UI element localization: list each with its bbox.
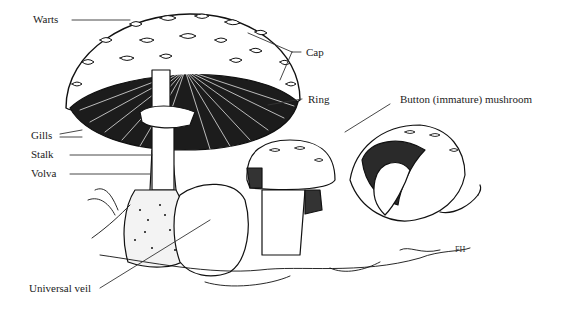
label-volva: Volva bbox=[31, 167, 56, 179]
label-warts: Warts bbox=[33, 13, 58, 25]
label-button-mushroom: Button (immature) mushroom bbox=[400, 93, 532, 105]
artist-signature: FH bbox=[455, 245, 465, 254]
label-ring: Ring bbox=[308, 93, 329, 105]
label-gills: Gills bbox=[31, 129, 52, 141]
button-mushroom-middle bbox=[247, 140, 335, 255]
label-cap: Cap bbox=[306, 46, 324, 58]
button-mushroom-right bbox=[350, 125, 481, 221]
universal-veil-egg bbox=[174, 184, 248, 276]
label-stalk: Stalk bbox=[31, 148, 54, 160]
mushroom-illustration bbox=[0, 0, 567, 310]
label-universal-veil: Universal veil bbox=[29, 282, 91, 294]
mushroom-diagram: Warts Cap Ring Button (immature) mushroo… bbox=[0, 0, 567, 310]
